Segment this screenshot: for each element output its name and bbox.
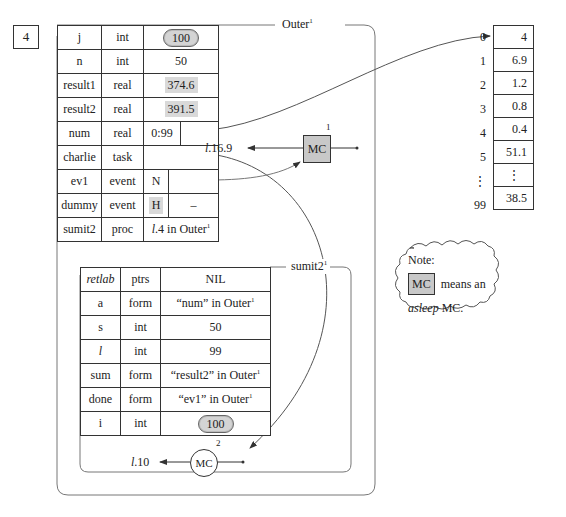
- var-name: charlie: [58, 146, 102, 170]
- var-name: n: [58, 50, 102, 74]
- num-array: 4 6.9 1.2 0.8 0.4 51.1 ⋮ 38.5: [493, 25, 534, 210]
- var-value: 50: [144, 50, 219, 74]
- var-type: int: [121, 412, 161, 436]
- var-value: 374.6: [144, 74, 219, 98]
- var-type: int: [121, 340, 161, 364]
- var-name: sumit2: [58, 218, 102, 242]
- table-row: sum form “result2” in Outer1: [81, 364, 271, 388]
- counter-box: 4: [13, 25, 39, 49]
- var-type: real: [102, 122, 144, 146]
- table-row: n int 50: [58, 50, 219, 74]
- var-type: event: [102, 170, 144, 194]
- var-value: l.4 in Outer1: [144, 218, 219, 242]
- var-value: “ev1” in Outer1: [161, 388, 271, 412]
- num-pointer-arrow: [210, 36, 490, 130]
- var-type: real: [102, 74, 144, 98]
- mc-return-target: l.10: [131, 455, 149, 470]
- ev1-pointer-arrow: [210, 162, 300, 180]
- var-name: l: [81, 340, 121, 364]
- array-index: 99: [456, 198, 486, 213]
- array-cell: 4: [494, 26, 534, 49]
- var-value: 391.5: [144, 98, 219, 122]
- array-index: 0: [456, 30, 486, 45]
- mc-superscript: 2: [216, 438, 221, 448]
- event-queue: –: [169, 194, 218, 217]
- var-value: N: [144, 170, 219, 194]
- array-index: 1: [456, 54, 486, 69]
- cloud-value: 100: [163, 29, 199, 47]
- mc-awake-circle: MC: [190, 449, 218, 477]
- var-name: ev1: [58, 170, 102, 194]
- table-row: charlie task: [58, 146, 219, 170]
- mc-asleep-sample: MC: [408, 273, 435, 295]
- array-index: 2: [456, 78, 486, 93]
- outer-variable-table: j int 100 n int 50 result1 real 374.6 re…: [57, 25, 219, 242]
- table-row: i int 100: [81, 412, 271, 436]
- shaded-value: 391.5: [165, 101, 198, 117]
- table-row: l int 99: [81, 340, 271, 364]
- array-cell: 1.2: [494, 72, 534, 95]
- var-value: NIL: [161, 268, 271, 292]
- table-row: result2 real 391.5: [58, 98, 219, 122]
- table-row: sumit2 proc l.4 in Outer1: [58, 218, 219, 242]
- event-state: N: [144, 170, 169, 193]
- array-cell: ⋮: [494, 164, 534, 187]
- var-value: “num” in Outer1: [161, 292, 271, 316]
- var-value: H–: [144, 194, 219, 218]
- pointer-cell: [169, 170, 218, 193]
- array-cell: 0.4: [494, 118, 534, 141]
- var-type: proc: [102, 218, 144, 242]
- var-name: a: [81, 292, 121, 316]
- var-name: s: [81, 316, 121, 340]
- var-type: form: [121, 292, 161, 316]
- array-index: 3: [456, 102, 486, 117]
- var-name: done: [81, 388, 121, 412]
- table-row: done form “ev1” in Outer1: [81, 388, 271, 412]
- var-type: form: [121, 388, 161, 412]
- var-name: result1: [58, 74, 102, 98]
- shaded-value: 374.6: [165, 77, 198, 93]
- table-row: dummy event H–: [58, 194, 219, 218]
- range-value: 0:99: [144, 122, 181, 145]
- var-name: j: [58, 26, 102, 50]
- mc-superscript: 1: [326, 122, 331, 132]
- note-title: Note:: [408, 248, 486, 272]
- var-type: int: [102, 50, 144, 74]
- table-row: num real 0:99: [58, 122, 219, 146]
- var-name: result2: [58, 98, 102, 122]
- table-row: ev1 event N: [58, 170, 219, 194]
- array-index: 5: [456, 150, 486, 165]
- table-row: j int 100: [58, 26, 219, 50]
- var-type: real: [102, 98, 144, 122]
- array-cell: 51.1: [494, 141, 534, 164]
- table-row: s int 50: [81, 316, 271, 340]
- mc-return-target: l.16.9: [205, 141, 232, 156]
- outer-frame-title: Outer1: [279, 17, 316, 32]
- var-value: “result2” in Outer1: [161, 364, 271, 388]
- array-index: ⋮: [456, 174, 486, 189]
- var-type: event: [102, 194, 144, 218]
- array-cell: 0.8: [494, 95, 534, 118]
- event-state: H: [144, 194, 169, 217]
- var-type: task: [102, 146, 144, 170]
- var-type: int: [121, 316, 161, 340]
- array-cell: 38.5: [494, 187, 534, 210]
- sumit2-frame-title: sumit21: [288, 259, 330, 274]
- legend-note: Note: MCmeans an asleep MC.: [392, 238, 522, 328]
- var-value: 50: [161, 316, 271, 340]
- var-type: int: [102, 26, 144, 50]
- array-cell: 6.9: [494, 49, 534, 72]
- cloud-value: 100: [198, 415, 234, 433]
- var-value: 100: [161, 412, 271, 436]
- table-row: a form “num” in Outer1: [81, 292, 271, 316]
- array-index: 4: [456, 126, 486, 141]
- table-row: retlab ptrs NIL: [81, 268, 271, 292]
- var-value: 99: [161, 340, 271, 364]
- mc-asleep-box: MC: [303, 135, 331, 163]
- var-name: dummy: [58, 194, 102, 218]
- var-name: retlab: [81, 268, 121, 292]
- var-type: form: [121, 364, 161, 388]
- var-value: 100: [144, 26, 219, 50]
- var-name: sum: [81, 364, 121, 388]
- var-name: num: [58, 122, 102, 146]
